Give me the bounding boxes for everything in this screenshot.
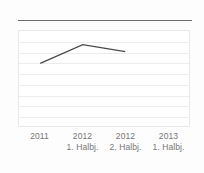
x-axis-tick-period: 2. Halbj. xyxy=(102,142,150,153)
x-axis-tick: 20122. Halbj. xyxy=(102,131,150,153)
x-axis-tick-year: 2011 xyxy=(16,131,64,142)
series-line-group xyxy=(19,31,189,126)
x-axis-tick-period: 1. Halbj. xyxy=(145,142,193,153)
x-axis-tick-period: 1. Halbj. xyxy=(59,142,107,153)
x-axis-tick-year: 2012 xyxy=(102,131,150,142)
series-line-wert xyxy=(40,45,125,64)
x-axis-labels: 201120121. Halbj.20122. Halbj.20131. Hal… xyxy=(18,131,190,163)
plot-area xyxy=(18,30,190,127)
x-axis-tick-year: 2013 xyxy=(145,131,193,142)
x-axis-tick: 2011 xyxy=(16,131,64,142)
x-axis-tick: 20121. Halbj. xyxy=(59,131,107,153)
x-axis-tick-year: 2012 xyxy=(59,131,107,142)
chart-container: 201120121. Halbj.20122. Halbj.20131. Hal… xyxy=(0,0,204,173)
x-axis-tick: 20131. Halbj. xyxy=(145,131,193,153)
header-divider-rule xyxy=(18,20,192,21)
